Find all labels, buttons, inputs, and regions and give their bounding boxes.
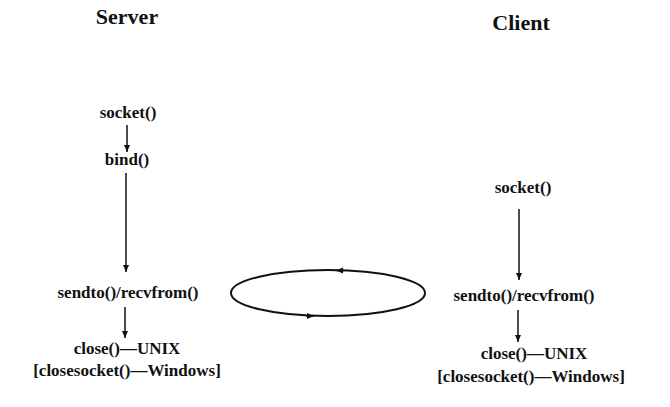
server-closesocket-windows: [closesocket()—Windows] xyxy=(33,361,221,381)
client-socket-call: socket() xyxy=(495,178,552,198)
server-sendto-recvfrom-call: sendto()/recvfrom() xyxy=(58,283,199,303)
client-title: Client xyxy=(492,10,549,36)
server-close-unix: close()—UNIX xyxy=(74,339,181,359)
exchange-ellipse xyxy=(231,270,425,316)
server-bind-call: bind() xyxy=(105,150,149,170)
client-close-unix: close()—UNIX xyxy=(481,344,588,364)
client-closesocket-windows: [closesocket()—Windows] xyxy=(437,367,625,387)
client-sendto-recvfrom-call: sendto()/recvfrom() xyxy=(454,286,595,306)
server-socket-call: socket() xyxy=(100,103,157,123)
server-title: Server xyxy=(96,4,158,30)
